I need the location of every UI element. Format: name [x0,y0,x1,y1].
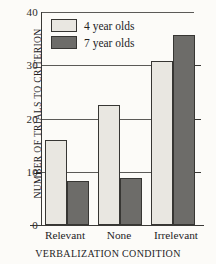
bar-none-7-year-olds [120,178,142,225]
legend-label-7-year-olds: 7 year olds [84,37,134,49]
gridline-40 [41,12,194,13]
y-axis-title: NUMBER OF TRIALS TO CRITERION [32,19,43,209]
legend-swatch-dark-icon [51,36,77,49]
bar-relevant-7-year-olds [67,181,89,225]
x-axis-title: VERBALIZATION CONDITION [0,248,216,259]
xtick-label-relevant: Relevant [34,229,96,241]
ytick-label-40: 40 [27,6,38,18]
ytick-mark-right-10 [194,172,201,173]
bar-chart-figure: 40 30 20 10 0 4 year olds 7 year olds NU… [0,0,216,264]
chart-legend: 4 year olds 7 year olds [51,18,134,52]
ytick-mark-right-30 [194,65,201,66]
xtick-label-irrelevant: Irrelevant [142,229,210,241]
bar-irrelevant-7-year-olds [173,35,195,225]
legend-item-4-year-olds: 4 year olds [51,18,134,33]
xtick-label-none: None [90,229,148,241]
legend-label-4-year-olds: 4 year olds [84,20,134,32]
ytick-mark-left-0 [36,225,41,226]
bar-none-4-year-olds [98,105,120,225]
legend-swatch-light-icon [51,19,77,32]
bar-irrelevant-4-year-olds [151,61,173,225]
bar-relevant-4-year-olds [45,140,67,225]
x-axis-line [30,225,204,226]
ytick-mark-right-20 [194,119,201,120]
legend-item-7-year-olds: 7 year olds [51,35,134,50]
